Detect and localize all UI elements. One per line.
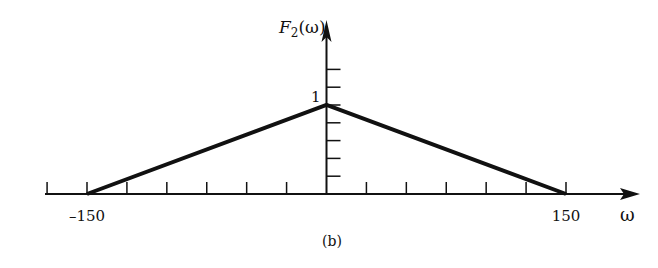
figure-caption: (b) bbox=[322, 233, 342, 249]
x-tick-label: –150 bbox=[69, 207, 105, 225]
triangle-spectrum-chart: F2(ω) ω (b) –150150 1 bbox=[0, 0, 658, 268]
y-axis-label: F2(ω) bbox=[278, 17, 326, 40]
y-tick-label: 1 bbox=[311, 88, 321, 106]
y-tick-labels: 1 bbox=[311, 88, 321, 106]
x-axis-label: ω bbox=[620, 204, 635, 225]
x-tick-label: 150 bbox=[552, 207, 581, 225]
x-tick-labels: –150150 bbox=[69, 207, 580, 225]
ticks bbox=[47, 69, 566, 194]
